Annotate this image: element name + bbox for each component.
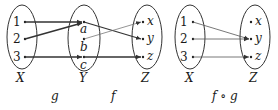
element-3: 3 bbox=[180, 50, 188, 64]
element-c: c bbox=[80, 58, 87, 72]
set-label-x: X bbox=[15, 71, 25, 85]
element-b: b bbox=[80, 40, 88, 54]
element-z: z bbox=[146, 49, 154, 63]
element-1: 1 bbox=[13, 15, 21, 29]
function-g-arrows bbox=[25, 22, 82, 57]
element-x: x bbox=[255, 14, 262, 28]
element-x: x bbox=[147, 14, 154, 28]
element-2: 2 bbox=[13, 32, 21, 46]
set-y: a b c Y bbox=[68, 5, 100, 85]
set-x-left: 1 2 3 X bbox=[7, 5, 37, 85]
element-2: 2 bbox=[180, 32, 188, 46]
element-z: z bbox=[254, 49, 262, 63]
function-composition-diagram: 1 2 3 X a b c Y x y z Z g f bbox=[0, 0, 278, 110]
element-y: y bbox=[254, 31, 262, 45]
set-z-left: x y z Z bbox=[132, 5, 162, 85]
function-label-f: f bbox=[110, 89, 118, 103]
set-label-z: Z bbox=[248, 71, 258, 85]
set-label-y: Y bbox=[79, 71, 88, 85]
element-y: y bbox=[146, 31, 154, 45]
set-x-right: 1 2 3 X bbox=[175, 5, 205, 85]
function-label-fog: f ∘ g bbox=[211, 89, 238, 103]
function-label-g: g bbox=[51, 89, 59, 103]
set-z-right: x y z Z bbox=[240, 5, 270, 85]
element-3: 3 bbox=[13, 50, 21, 64]
set-label-x: X bbox=[184, 71, 194, 85]
arrow-2-to-a bbox=[25, 23, 82, 39]
element-1: 1 bbox=[180, 15, 188, 29]
set-label-z: Z bbox=[140, 71, 150, 85]
element-a: a bbox=[80, 22, 87, 36]
